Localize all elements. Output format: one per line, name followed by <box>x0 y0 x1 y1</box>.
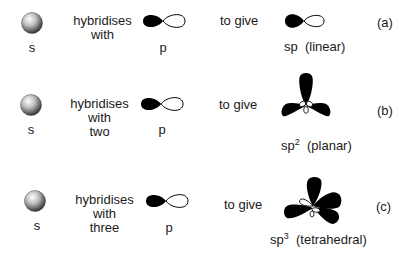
p-label: p <box>159 221 179 235</box>
verb-line: hybridises <box>60 14 145 28</box>
p-orbital-icon <box>141 11 187 31</box>
p-label: p <box>153 41 173 55</box>
to-give-text: to give <box>224 198 262 212</box>
hybridises-with-text: hybridises with three <box>62 193 147 235</box>
hybrid-name: sp <box>284 39 298 54</box>
s-label: s <box>21 123 41 137</box>
row-tag: (b) <box>377 104 393 118</box>
p-orbital-icon <box>144 191 190 211</box>
hybrid-label: sp2 (planar) <box>281 139 352 153</box>
hybrid-name: sp <box>281 138 295 153</box>
p-orbital-icon <box>139 94 185 114</box>
hybrid-label: sp3 (tetrahedral) <box>270 233 367 247</box>
s-label: s <box>27 219 47 233</box>
geometry-label: (linear) <box>305 39 345 54</box>
row-tag: (a) <box>377 16 393 30</box>
s-orbital-icon <box>20 94 42 116</box>
verb-line: with <box>60 28 145 42</box>
p-label: p <box>152 123 172 137</box>
geometry-label: (planar) <box>307 138 352 153</box>
hybrid-label: sp (linear) <box>284 40 345 54</box>
row-tag: (c) <box>376 200 391 214</box>
verb-line: three <box>62 221 147 235</box>
sp-hybrid-icon <box>284 11 326 31</box>
s-orbital-icon <box>21 12 43 34</box>
hybridises-with-text: hybridises with <box>60 14 145 42</box>
s-orbital-icon <box>24 190 46 212</box>
to-give-text: to give <box>220 14 258 28</box>
sp2-hybrid-icon <box>280 72 332 124</box>
s-label: s <box>22 41 42 55</box>
verb-line: with <box>57 111 142 125</box>
verb-line: hybridises <box>57 97 142 111</box>
verb-line: hybridises <box>62 193 147 207</box>
geometry-label: (tetrahedral) <box>296 232 367 247</box>
verb-line: with <box>62 207 147 221</box>
hybridises-with-text: hybridises with two <box>57 97 142 139</box>
sp3-hybrid-icon <box>283 176 345 228</box>
hybrid-name: sp <box>270 232 284 247</box>
to-give-text: to give <box>219 98 257 112</box>
verb-line: two <box>57 125 142 139</box>
